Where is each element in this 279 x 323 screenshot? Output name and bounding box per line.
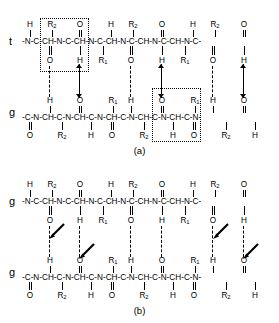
hydrogen-bond [130,66,131,97]
bond-single [213,266,214,273]
atom-o: O [24,131,36,140]
bond-single [113,266,114,273]
bond-single [113,106,114,113]
atom-r2: R2 [136,291,152,301]
bond-double [212,206,215,215]
atom-r2: R2 [125,20,141,30]
backbone-b-top: -N-C-CH-N-C-CH-N-C-CH-N-C-CH-N-C-CH-N-C- [22,197,201,206]
caption-a: (a) [0,146,279,156]
atom-h: H [125,256,137,265]
bond-single [195,106,196,113]
hydrogen-bond [130,226,131,257]
atom-h: H [249,291,261,300]
atom-r1: R1 [187,256,203,266]
bond-single [213,106,214,113]
atom-h: H [187,20,199,29]
atom-o: O [74,256,86,265]
bond-single [193,190,194,197]
registration-arrow-diagonal [48,222,66,240]
atom-h: H [74,216,86,225]
atom-o: O [74,96,86,105]
atom-r2: R2 [44,20,60,30]
panel-a: t g -N-C-CH-N-C-CH-N-C-CH-N-C-CH-N-C-CH-… [0,0,279,160]
bond-single [91,282,92,290]
atom-o: O [44,56,56,65]
atom-o: O [238,20,250,29]
registration-arrow-diagonal [212,222,230,240]
bond-single [185,46,186,55]
atom-o: O [188,131,200,140]
atom-r2: R2 [54,131,70,141]
atom-o: O [125,56,137,65]
bond-single [215,190,216,197]
backbone-b-bottom: -C-N-CH-C-N-CH-C-N-CH-C-N-CH-C-N-CH-C-N- [22,273,201,282]
atom-o: O [238,256,250,265]
bond-single [144,282,145,290]
caption-b: (b) [0,306,279,316]
bond-double [243,30,246,37]
atom-r2: R2 [54,291,70,301]
atom-r2: R2 [136,131,152,141]
atom-o: O [125,216,137,225]
bond-double [79,106,82,113]
backbone-a-bottom: -C-N-CH-C-N-CH-C-N-CH-C-N-CH-C-N-CH-C-N- [22,113,201,122]
atom-o: O [156,96,168,105]
bond-double [161,106,164,113]
bond-single [226,282,227,290]
bond-single [103,206,104,215]
atom-o: O [106,291,118,300]
chain-label-a-bottom: g [9,107,15,118]
atom-r1: R1 [187,96,203,106]
atom-o: O [238,180,250,189]
atom-o: O [74,180,86,189]
atom-o: O [74,20,86,29]
bond-single [226,122,227,130]
bond-single [133,30,134,37]
bond-single [195,266,196,273]
atom-h: H [85,131,97,140]
bond-double [243,266,246,273]
bond-single [52,190,53,197]
bond-double [29,282,32,290]
atom-h: H [249,131,261,140]
bond-single [185,206,186,215]
bond-double [212,46,215,55]
hydrogen-bond [212,66,213,97]
bond-double [130,46,133,55]
panel-b: g g -N-C-CH-N-C-CH-N-C-CH-N-C-CH-N-C-CH-… [0,160,279,323]
bond-single [62,282,63,290]
bond-single [215,30,216,37]
bond-single [52,30,53,37]
bond-single [111,30,112,37]
atom-h: H [167,131,179,140]
atom-h: H [44,256,56,265]
atom-h: H [125,96,137,105]
atom-o: O [207,56,219,65]
bond-double [243,190,246,197]
bond-double [243,106,246,113]
atom-r1: R1 [105,256,121,266]
atom-r1: R1 [95,216,111,226]
bond-double [79,30,82,37]
registration-arrow [76,64,83,98]
bond-double [79,266,82,273]
bond-single [162,206,163,215]
bond-single [30,190,31,197]
bond-single [255,282,256,290]
chain-label-b-top: g [9,196,15,207]
atom-o: O [24,291,36,300]
atom-h: H [85,291,97,300]
atom-h: H [207,256,219,265]
bond-single [144,122,145,130]
bond-single [50,266,51,273]
atom-h: H [24,180,36,189]
bond-single [62,122,63,130]
bond-double [193,282,196,290]
bond-single [133,190,134,197]
atom-h: H [24,20,36,29]
bond-single [91,122,92,130]
bond-single [103,46,104,55]
atom-h: H [238,216,250,225]
bond-single [244,46,245,55]
atom-h: H [105,180,117,189]
